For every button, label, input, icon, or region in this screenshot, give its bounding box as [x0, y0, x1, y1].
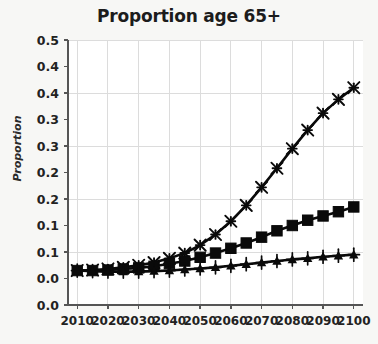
x-tick-label: 2080: [276, 314, 309, 328]
data-point-marker: [226, 243, 236, 253]
data-point-marker: [333, 94, 344, 105]
y-axis-tick-labels: 0.00.00.10.10.20.20.30.30.40.40.5: [37, 33, 59, 313]
x-tick-label: 2090: [306, 314, 339, 328]
data-point-marker: [241, 200, 252, 211]
y-tick-label: 0.2: [37, 165, 59, 180]
data-point-marker: [256, 232, 266, 242]
plot-canvas: 0.00.00.10.10.20.20.30.30.40.40.5 201020…: [0, 0, 378, 344]
data-point-marker: [271, 163, 282, 174]
x-tick-label: 2020: [91, 314, 124, 328]
data-point-marker: [317, 108, 328, 119]
x-tick-label: 2050: [183, 314, 216, 328]
x-tick-label: 2060: [214, 314, 247, 328]
x-tick-label: 2010: [61, 314, 94, 328]
y-tick-label: 0.0: [37, 271, 59, 286]
data-point-marker: [256, 182, 267, 193]
x-axis-tick-labels: 2010202020302040205020602070208020902100: [61, 314, 371, 328]
y-tick-label: 0.3: [37, 112, 59, 127]
chart-figure: Proportion age 65+ Proportion 0.00.00.10…: [0, 0, 378, 344]
data-point-marker: [348, 82, 359, 93]
data-point-marker: [195, 240, 206, 251]
y-tick-label: 0.0: [37, 298, 59, 313]
y-tick-label: 0.3: [37, 139, 59, 154]
y-tick-label: 0.1: [37, 218, 59, 233]
y-tick-label: 0.4: [37, 59, 59, 74]
data-point-marker: [210, 248, 220, 258]
data-point-marker: [272, 226, 282, 236]
y-tick-label: 0.1: [37, 245, 59, 260]
y-tick-label: 0.2: [37, 192, 59, 207]
x-tick-label: 2030: [122, 314, 155, 328]
data-point-marker: [302, 125, 313, 136]
data-point-marker: [210, 229, 221, 240]
data-point-marker: [195, 252, 205, 262]
data-point-marker: [287, 143, 298, 154]
x-tick-label: 2040: [153, 314, 186, 328]
data-point-marker: [349, 202, 359, 212]
y-tick-label: 0.4: [37, 86, 59, 101]
data-point-marker: [225, 216, 236, 227]
data-point-marker: [318, 211, 328, 221]
x-tick-label: 2100: [337, 314, 370, 328]
data-point-marker: [287, 220, 297, 230]
x-tick-label: 2070: [245, 314, 278, 328]
data-point-marker: [241, 238, 251, 248]
y-tick-label: 0.5: [37, 33, 59, 48]
data-point-marker: [333, 207, 343, 217]
data-point-marker: [302, 215, 312, 225]
